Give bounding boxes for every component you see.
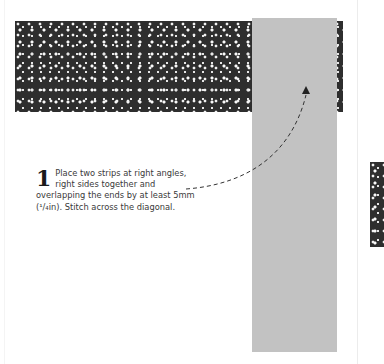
step-text: Place two strips at right angles, right …: [36, 168, 195, 212]
step-instruction: 1 Place two strips at right angles, righ…: [36, 168, 206, 213]
step-number: 1: [36, 169, 51, 187]
